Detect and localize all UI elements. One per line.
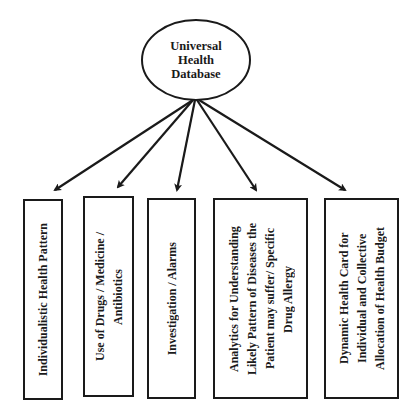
arrow-to-dynamic-health-card — [199, 100, 345, 190]
node-use-of-drugs-medicine-antibiotics: Use of Drugs / Medicine / Antibiotics — [83, 196, 134, 397]
root-label-line-1: Universal — [170, 39, 221, 53]
node-label: Individualistic Health Pattern — [34, 223, 52, 376]
arrow-to-use-of-drugs — [118, 100, 193, 187]
root-node-label: Universal Health Database — [170, 39, 221, 81]
arrow-to-analytics — [197, 100, 256, 190]
arrows — [55, 100, 345, 190]
node-analytics-disease-pattern: Analytics for Understanding Likely Patte… — [213, 198, 308, 399]
node-investigation-alarms: Investigation / Alarms — [147, 198, 196, 399]
node-individualistic-health-pattern: Individualistic Health Pattern — [23, 199, 63, 400]
root-label-line-3: Database — [170, 67, 221, 81]
node-label: Dynamic Health Card for Individual and C… — [335, 227, 389, 370]
root-label-line-2: Health — [170, 53, 221, 67]
node-label: Analytics for Understanding Likely Patte… — [225, 223, 297, 375]
root-node-universal-health-database: Universal Health Database — [142, 20, 250, 100]
node-label: Investigation / Alarms — [163, 242, 181, 355]
node-label: Use of Drugs / Medicine / Antibiotics — [91, 232, 127, 361]
arrow-to-individualistic-health-pattern — [55, 100, 193, 190]
arrow-to-investigation — [177, 100, 195, 190]
node-dynamic-health-card: Dynamic Health Card for Individual and C… — [324, 198, 399, 399]
